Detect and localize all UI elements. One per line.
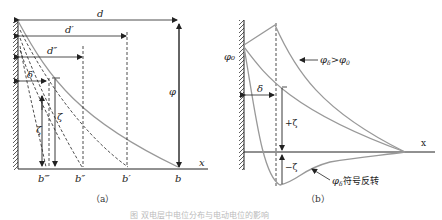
wall-hatch-b [239,20,244,170]
plus-zeta-label: +ζ [285,118,298,128]
delta-label-a: δ [27,69,33,80]
phi0-label: φ₀ [224,51,235,62]
panel-a: x d d′ d″ δ φ ζ ζ b‴ b″ b′ [13,8,208,204]
d-double-label: d″ [47,45,57,56]
panel-b-caption: （b） [306,194,330,204]
zeta2-label: ζ [36,124,42,135]
minus-zeta-label: −ζ [285,162,298,172]
d-prime-label: d′ [65,24,74,35]
curve-phi-delta-greater [244,25,405,152]
phi-label: φ [169,86,176,97]
zeta-label: ζ [57,111,63,122]
panel-b: x φ₀ φδ>φ0 δ +ζ −ζ φδ符号反转 （b） [224,20,435,204]
delta-label-b: δ [257,83,263,94]
b-label: b [175,173,181,184]
x-axis-label-b: x [421,138,426,148]
sign-reversal-pointer [312,169,330,180]
d-label: d [97,8,103,19]
panel-a-caption: （a） [91,194,114,204]
phi-delta-greater-label: φδ>φ0 [320,54,350,66]
wall-hatch-a [13,21,18,170]
figure: x d d′ d″ δ φ ζ ζ b‴ b″ b′ [0,0,442,220]
sign-reversal-label: φδ符号反转 [332,175,379,187]
x-axis-label-a: x [199,157,205,168]
b-prime-label: b′ [122,173,131,184]
b-triple-label: b‴ [38,173,50,184]
b-double-label: b″ [75,173,85,184]
figure-caption: 图 双电层中电位分布与电动电位的影响 [130,210,269,220]
